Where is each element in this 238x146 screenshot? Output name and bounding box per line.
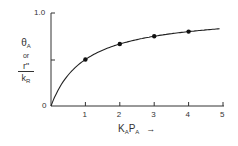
x-tick-label: 3 bbox=[151, 110, 155, 119]
y-tick-label-zero: 0 bbox=[42, 101, 46, 110]
x-tick-label: 1 bbox=[82, 110, 86, 119]
data-markers bbox=[83, 29, 191, 61]
rate-numerator: r" bbox=[18, 62, 34, 72]
x-tick-label: 4 bbox=[186, 110, 190, 119]
x-tick-label: 5 bbox=[220, 110, 224, 119]
y-tick-label-top: 1.0 bbox=[34, 8, 45, 17]
data-point bbox=[186, 29, 190, 33]
data-point bbox=[83, 57, 87, 61]
x-axis-label: KAPA → bbox=[118, 123, 155, 135]
y-axis-label: θA or r" kR bbox=[10, 38, 42, 84]
isotherm-curve bbox=[51, 29, 220, 106]
or-label: or bbox=[10, 52, 42, 59]
data-point bbox=[118, 42, 122, 46]
x-tick-label: 2 bbox=[117, 110, 121, 119]
rate-denominator: kR bbox=[10, 74, 42, 84]
data-point bbox=[152, 34, 156, 38]
arrow-icon: → bbox=[146, 124, 155, 134]
x-ticks bbox=[85, 102, 223, 106]
theta-label: θA bbox=[10, 38, 42, 49]
